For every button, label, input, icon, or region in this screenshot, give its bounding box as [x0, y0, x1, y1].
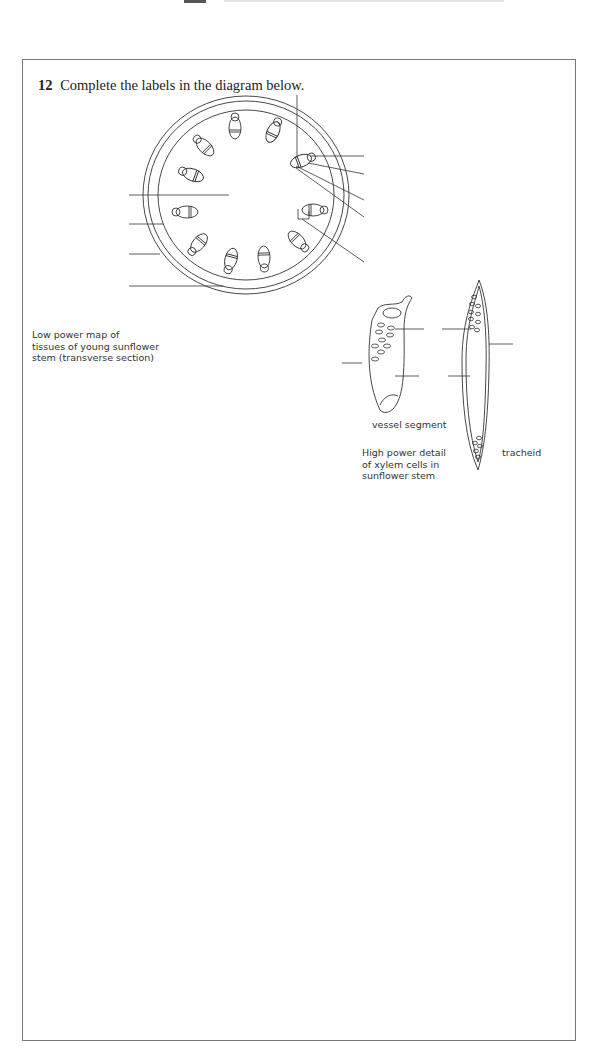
label-lines-vessel — [342, 329, 424, 376]
label-lines-tracheid — [442, 329, 513, 376]
caption-line: tissues of young sunflower — [32, 341, 159, 353]
caption-line: sunflower stem — [362, 470, 446, 482]
caption-line: High power detail — [362, 447, 446, 459]
tracheid-drawing — [462, 280, 489, 470]
vascular-bundles — [172, 113, 328, 275]
caption-line: of xylem cells in — [362, 459, 446, 471]
label-lines-low-power — [129, 95, 364, 286]
caption-line: Low power map of — [32, 329, 159, 341]
tracheid-label: tracheid — [502, 447, 541, 459]
vessel-segment-drawing — [369, 296, 412, 413]
caption-line: stem (transverse section) — [32, 352, 159, 364]
high-power-caption: High power detail of xylem cells in sunf… — [362, 447, 446, 482]
vessel-segment-label: vessel segment — [372, 419, 447, 431]
low-power-caption: Low power map of tissues of young sunflo… — [32, 329, 159, 364]
diagram — [0, 0, 604, 1046]
